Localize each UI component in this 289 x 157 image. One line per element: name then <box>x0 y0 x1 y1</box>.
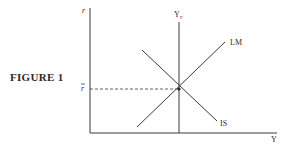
yf-label-subscript: F <box>180 15 183 20</box>
lm-label: LM <box>230 38 242 47</box>
is-label: IS <box>220 119 227 128</box>
x-axis-label: Y <box>271 135 277 144</box>
r-bar-label: r <box>81 84 85 93</box>
y-axis-label: r <box>82 6 86 15</box>
r-bar-text: r <box>81 84 85 93</box>
yf-label: Y F <box>174 10 183 20</box>
lm-curve <box>137 42 225 127</box>
equilibrium-point <box>177 87 180 90</box>
is-lm-diagram: r r Y F LM IS Y <box>0 0 289 157</box>
